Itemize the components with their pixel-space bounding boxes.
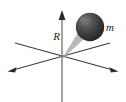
radius-label: R <box>52 30 60 42</box>
mass-label: m <box>106 21 114 33</box>
sphere-icon <box>76 13 104 41</box>
diagram-canvas: R m <box>0 0 126 102</box>
physics-diagram-figure: R m <box>0 0 126 102</box>
